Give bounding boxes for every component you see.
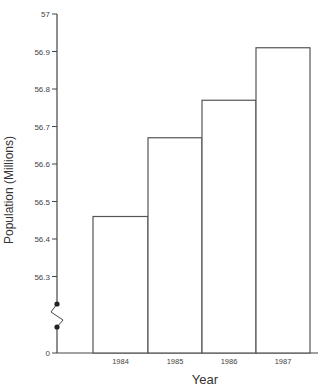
y-tick-label: 56.5 [34,198,50,207]
y-tick-label: 56.7 [34,123,50,132]
x-tick-label: 1985 [167,357,184,366]
bar-1984 [93,217,148,354]
x-tick-label: 1987 [275,357,292,366]
y-tick-label: 56.4 [34,235,50,244]
y-axis-ticks: 056.356.456.556.656.756.856.957 [34,10,57,358]
y-tick-label: 56.3 [34,273,50,282]
x-axis-title: Year [192,372,219,387]
y-tick-label: 56.8 [34,85,50,94]
bar-1985 [148,138,202,353]
x-tick-label: 1984 [112,357,129,366]
y-tick-label: 56.9 [34,48,50,57]
bar-1987 [256,48,310,353]
y-tick-label: 0 [46,349,51,358]
bars [93,48,310,353]
y-axis-title: Population (Millions) [2,136,16,244]
y-tick-label: 57 [41,10,50,19]
axis-break-icon [51,301,63,329]
x-tick-label: 1986 [221,357,238,366]
bar-1986 [202,100,256,353]
y-tick-label: 56.6 [34,160,50,169]
x-axis-labels: 1984198519861987 [112,357,291,366]
bar-chart: 056.356.456.556.656.756.856.957 19841985… [0,0,328,387]
